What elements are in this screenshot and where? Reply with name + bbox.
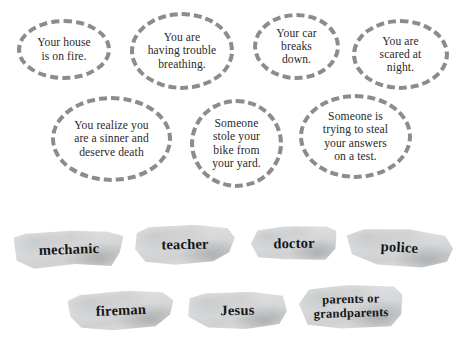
scenario-text: You realize you are a sinner and deserve… bbox=[70, 119, 153, 158]
helper-strip-police[interactable]: police bbox=[345, 225, 454, 271]
helper-strip-fireman[interactable]: fireman bbox=[67, 289, 175, 333]
helper-label: Jesus bbox=[220, 303, 254, 319]
scenario-text: Someone is trying to steal your answers … bbox=[319, 110, 392, 162]
helper-strip-doctor[interactable]: doctor bbox=[251, 225, 338, 263]
helper-strip-mechanic[interactable]: mechanic bbox=[13, 228, 124, 271]
helper-strip-parents-grandparents[interactable]: parents or grandparents bbox=[298, 284, 403, 331]
scenario-bubble-sinner-deserve-death[interactable]: You realize you are a sinner and deserve… bbox=[51, 96, 172, 182]
helper-label: teacher bbox=[161, 237, 209, 253]
worksheet-canvas: Your house is on fire. You are having tr… bbox=[0, 0, 469, 360]
helper-strip-jesus[interactable]: Jesus bbox=[188, 291, 288, 331]
scenario-text: You are having trouble breathing. bbox=[144, 31, 221, 70]
scenario-bubble-scared-at-night[interactable]: You are scared at night. bbox=[352, 19, 449, 90]
helper-label: parents or grandparents bbox=[313, 292, 389, 321]
scenario-bubble-stolen-bike[interactable]: Someone stole your bike from your yard. bbox=[190, 99, 283, 188]
helper-label: doctor bbox=[273, 236, 315, 253]
scenario-text: You are scared at night. bbox=[376, 35, 426, 74]
helper-label: mechanic bbox=[39, 241, 100, 259]
helper-label: fireman bbox=[96, 302, 147, 320]
helper-label: police bbox=[380, 239, 418, 257]
scenario-bubble-house-fire[interactable]: Your house is on fire. bbox=[17, 19, 111, 80]
scenario-bubble-car-breaks-down[interactable]: Your car breaks down. bbox=[253, 13, 340, 80]
helper-strip-teacher[interactable]: teacher bbox=[135, 224, 236, 266]
scenario-bubble-trouble-breathing[interactable]: You are having trouble breathing. bbox=[130, 12, 234, 90]
scenario-text: Your house is on fire. bbox=[33, 36, 95, 62]
scenario-bubble-steal-test-answers[interactable]: Someone is trying to steal your answers … bbox=[299, 94, 412, 179]
scenario-text: Your car breaks down. bbox=[272, 27, 321, 66]
scenario-text: Someone stole your bike from your yard. bbox=[208, 117, 265, 169]
